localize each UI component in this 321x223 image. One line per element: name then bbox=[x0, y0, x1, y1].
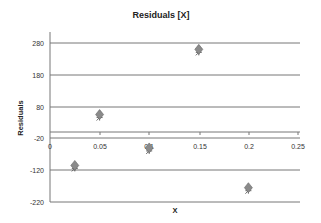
y-tick-labels: 280 180 80 -20 -120 -220 bbox=[30, 40, 44, 206]
svg-text:-220: -220 bbox=[30, 199, 44, 206]
svg-text:0.25: 0.25 bbox=[291, 143, 305, 150]
svg-text:80: 80 bbox=[36, 104, 44, 111]
data-points bbox=[71, 44, 253, 193]
svg-text:-120: -120 bbox=[30, 167, 44, 174]
svg-text:180: 180 bbox=[32, 72, 44, 79]
data-point-marker bbox=[71, 160, 79, 170]
gridlines bbox=[50, 43, 300, 202]
data-point-marker bbox=[96, 110, 104, 120]
svg-text:-20: -20 bbox=[34, 135, 44, 142]
chart-title: Residuals [X] bbox=[132, 10, 189, 20]
svg-text:0: 0 bbox=[48, 143, 52, 150]
x-tick-labels: 0 0.05 0.1 0.15 0.2 0.25 bbox=[48, 143, 305, 150]
data-point-marker bbox=[195, 44, 203, 54]
svg-text:280: 280 bbox=[32, 40, 44, 47]
x-axis-label: X bbox=[172, 206, 177, 215]
svg-text:0.2: 0.2 bbox=[244, 143, 254, 150]
data-point-marker bbox=[244, 183, 252, 193]
residuals-chart: Residuals [X] 280 180 80 -20 -120 -220 0… bbox=[0, 0, 321, 223]
y-axis-label: Residuals bbox=[16, 100, 25, 135]
svg-text:0.15: 0.15 bbox=[193, 143, 207, 150]
svg-text:0.05: 0.05 bbox=[93, 143, 107, 150]
